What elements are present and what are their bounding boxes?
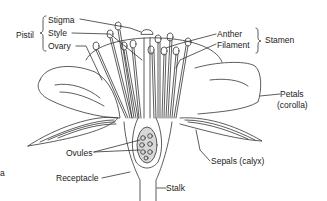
receptacle-label: Receptacle — [56, 173, 99, 183]
corolla-label: (corolla) — [277, 100, 308, 110]
right-petal — [195, 62, 261, 114]
pistil-group-label: Pistil — [16, 30, 34, 40]
style-label: Style — [48, 28, 67, 38]
ovules-label: Ovules — [66, 148, 92, 158]
edge-text-fragment: a — [0, 168, 5, 178]
leader-sepals — [196, 130, 210, 161]
left-petal — [38, 66, 120, 118]
stigma-label: Stigma — [48, 15, 74, 25]
sepals-label: Sepals (calyx) — [211, 156, 264, 166]
pistil-brace — [40, 16, 46, 51]
receptacle-left — [124, 122, 140, 201]
stalk-label: Stalk — [166, 183, 185, 193]
leader-petals — [260, 94, 280, 96]
stamen-brace — [256, 28, 261, 53]
leader-receptacle — [102, 172, 130, 178]
filament-label: Filament — [217, 40, 250, 50]
leader-ovules — [94, 140, 140, 152]
stigma — [141, 30, 153, 35]
anther-label: Anther — [217, 29, 242, 39]
ovary-label: Ovary — [48, 41, 71, 51]
style — [144, 38, 150, 118]
stamen-group-label: Stamen — [265, 35, 294, 45]
petals-label: Petals — [280, 89, 304, 99]
leader-style — [72, 33, 142, 60]
